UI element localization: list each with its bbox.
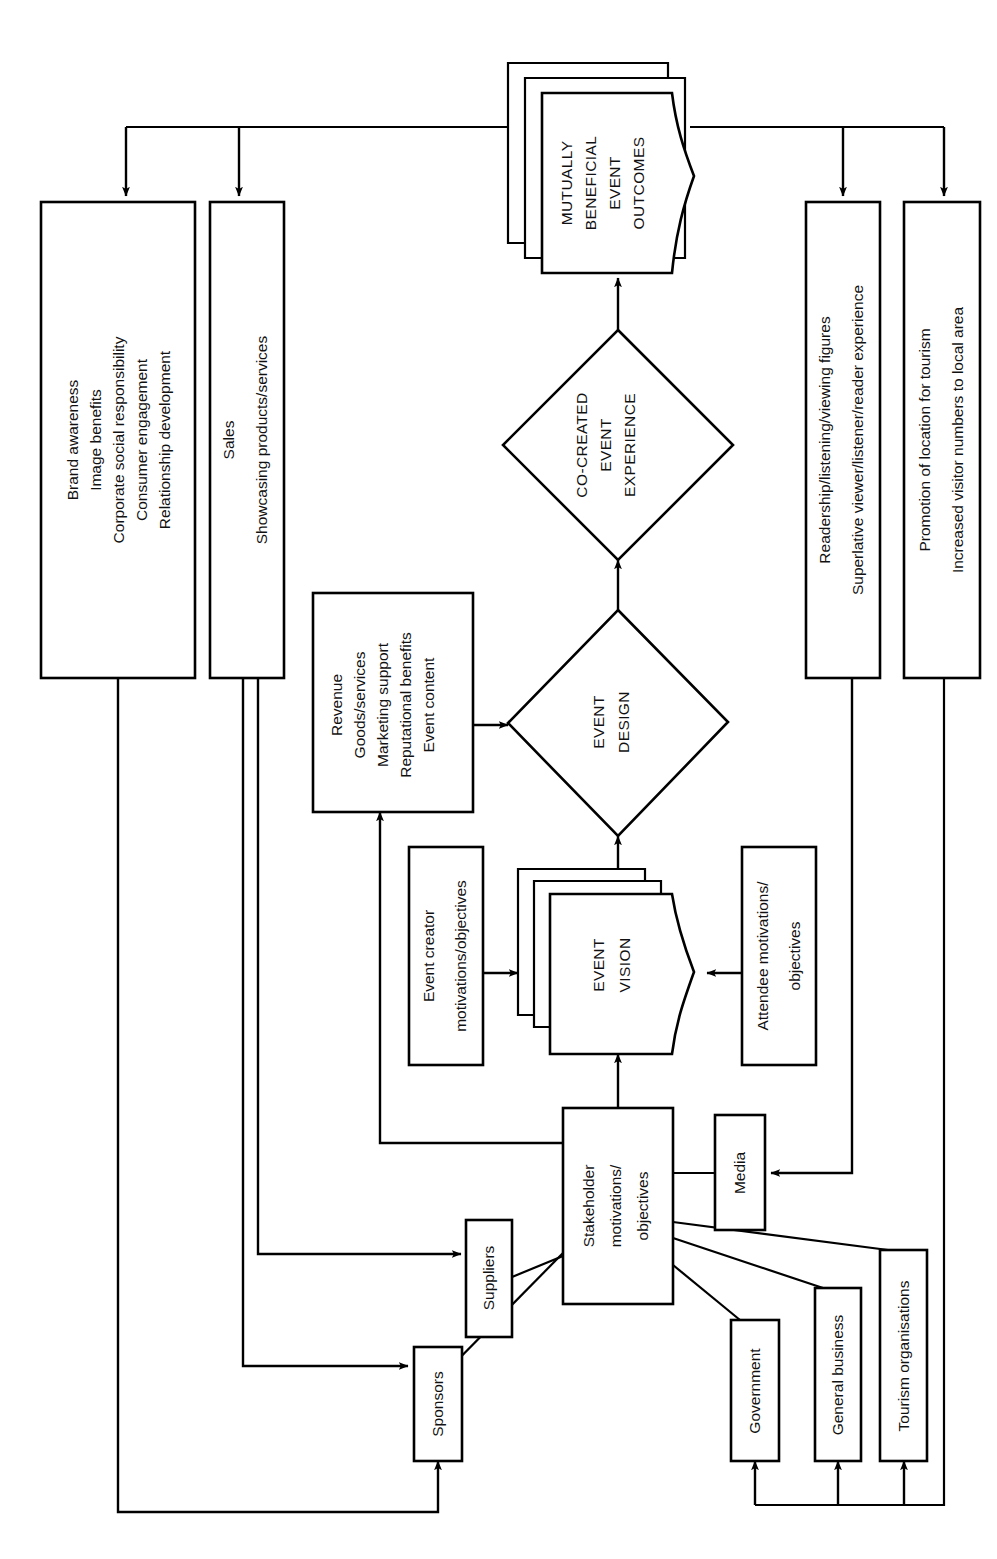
node-media-benefits[interactable]: Readership/listening/viewing figures Sup… <box>806 202 880 678</box>
sponsor-benefits-line-0: Brand awareness <box>64 379 81 500</box>
node-government[interactable]: Government <box>731 1320 779 1461</box>
media-benefits-line-1: Superlative viewer/listener/reader exper… <box>849 285 866 595</box>
event-creator-line-1: motivations/objectives <box>452 880 469 1032</box>
event-inputs-line-1: Goods/services <box>351 651 368 758</box>
edge-government-to-hub <box>673 1265 740 1320</box>
node-event-vision[interactable]: EVENT VISION <box>518 869 694 1054</box>
node-co-created-event-experience[interactable]: CO-CREATED EVENT EXPERIENCE <box>503 330 733 560</box>
node-sponsors[interactable]: Sponsors <box>414 1347 462 1461</box>
node-supplier-benefits[interactable]: Sales Showcasing products/services <box>210 202 284 678</box>
event-inputs-line-3: Reputational benefits <box>397 632 414 778</box>
event-inputs-line-4: Event content <box>420 657 437 752</box>
supplier-benefits-line-1: Showcasing products/services <box>253 336 270 545</box>
outcomes-line-3: OUTCOMES <box>630 137 647 230</box>
sponsor-benefits-line-3: Consumer engagement <box>133 358 150 521</box>
node-outcomes[interactable]: MUTUALLY BENEFICIAL EVENT OUTCOMES <box>508 63 694 273</box>
stakeholder-hub-line-0: Stakeholder <box>580 1165 597 1248</box>
node-general-business[interactable]: General business <box>815 1288 861 1461</box>
flowchart-svg: Brand awareness Image benefits Corporate… <box>0 0 997 1559</box>
general-business-label: General business <box>829 1314 846 1435</box>
supplier-benefits-line-0: Sales <box>220 420 237 459</box>
event-design-line-0: EVENT <box>590 695 607 749</box>
sponsors-label: Sponsors <box>429 1371 446 1437</box>
event-inputs-line-0: Revenue <box>328 674 345 736</box>
event-vision-line-0: EVENT <box>590 938 607 992</box>
node-event-inputs[interactable]: Revenue Goods/services Marketing support… <box>313 593 473 812</box>
event-inputs-line-2: Marketing support <box>374 642 391 767</box>
media-benefits-line-0: Readership/listening/viewing figures <box>816 316 833 564</box>
edge-genbusiness-to-hub <box>673 1238 823 1288</box>
outcomes-line-0: MUTUALLY <box>558 141 575 226</box>
node-tourism-organisations[interactable]: Tourism organisations <box>880 1250 927 1461</box>
tourism-benefits-line-0: Promotion of location for tourism <box>916 328 933 551</box>
sponsor-benefits-line-2: Corporate social responsibility <box>110 336 127 543</box>
sponsor-benefits-line-4: Relationship development <box>156 350 173 529</box>
government-label: Government <box>746 1348 763 1434</box>
node-suppliers[interactable]: Suppliers <box>466 1220 512 1337</box>
node-event-creator[interactable]: Event creator motivations/objectives <box>409 847 483 1065</box>
node-stakeholder-hub[interactable]: Stakeholder motivations/ objectives <box>563 1108 673 1304</box>
cocreated-line-2: EXPERIENCE <box>621 393 638 497</box>
node-media[interactable]: Media <box>715 1115 765 1230</box>
suppliers-label: Suppliers <box>480 1245 497 1310</box>
event-design-line-1: DESIGN <box>615 691 632 753</box>
edge-tourismorgs-to-hub <box>673 1222 888 1250</box>
node-attendee[interactable]: Attendee motivations/ objectives <box>742 847 816 1065</box>
event-vision-line-1: VISION <box>616 938 633 993</box>
outcomes-line-2: EVENT <box>606 156 623 210</box>
tourism-orgs-label: Tourism organisations <box>895 1280 912 1431</box>
outcomes-line-1: BENEFICIAL <box>582 136 599 230</box>
attendee-line-0: Attendee motivations/ <box>754 881 771 1031</box>
edge-suppliers-to-hub <box>512 1256 563 1277</box>
event-creator-line-0: Event creator <box>420 910 437 1002</box>
node-sponsor-benefits[interactable]: Brand awareness Image benefits Corporate… <box>41 202 195 678</box>
attendee-line-1: objectives <box>786 921 803 990</box>
cocreated-line-0: CO-CREATED <box>573 392 590 497</box>
stakeholder-hub-line-2: objectives <box>634 1171 651 1240</box>
cocreated-line-1: EVENT <box>597 418 614 472</box>
tourism-benefits-line-1: Increased visitor numbers to local area <box>949 307 966 574</box>
diagram-canvas: Brand awareness Image benefits Corporate… <box>0 0 997 1559</box>
stakeholder-hub-line-1: motivations/ <box>607 1164 624 1247</box>
node-tourism-benefits[interactable]: Promotion of location for tourism Increa… <box>904 202 980 678</box>
node-event-design[interactable]: EVENT DESIGN <box>508 610 728 836</box>
media-label: Media <box>731 1152 748 1195</box>
sponsor-benefits-line-1: Image benefits <box>87 389 104 491</box>
